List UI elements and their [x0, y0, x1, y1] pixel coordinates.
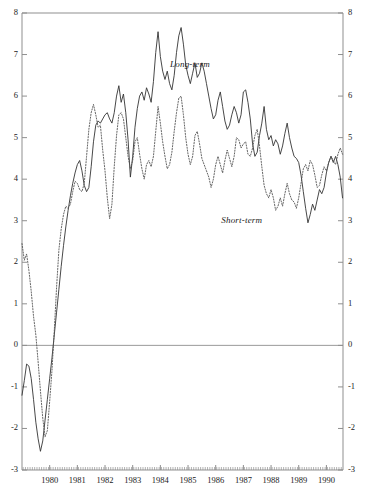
series-line-short-term: [22, 96, 343, 437]
y-axis-label-right--2: -2: [348, 423, 367, 432]
y-axis-label-left--1: -1: [0, 382, 18, 391]
y-axis-label-left-6: 6: [0, 91, 18, 100]
series-annotation-short-term: Short-term: [221, 215, 262, 225]
y-axis-label-left-4: 4: [0, 174, 18, 183]
series-annotation-long-term: Long-term: [170, 59, 210, 69]
y-axis-label-right-4: 4: [348, 174, 367, 183]
y-axis-label-right-3: 3: [348, 216, 367, 225]
y-axis-label-left-7: 7: [0, 50, 18, 59]
y-axis-label-left-2: 2: [0, 257, 18, 266]
y-axis-label-right-6: 6: [348, 91, 367, 100]
x-axis-label-1980: 1980: [36, 476, 64, 485]
x-axis-label-1988: 1988: [257, 476, 285, 485]
chart-plot-area: [0, 0, 367, 500]
x-axis-label-1984: 1984: [146, 476, 174, 485]
y-axis-label-left--2: -2: [0, 423, 18, 432]
y-axis-label-left-0: 0: [0, 340, 18, 349]
x-axis-label-1982: 1982: [91, 476, 119, 485]
chart-figure: 887766554433221100-1-1-2-2-3-31980198119…: [0, 0, 367, 500]
series-line-long-term: [22, 28, 343, 452]
x-axis-label-1985: 1985: [174, 476, 202, 485]
x-axis-label-1990: 1990: [312, 476, 340, 485]
y-axis-label-right-0: 0: [348, 340, 367, 349]
x-axis-label-1989: 1989: [285, 476, 313, 485]
y-axis-label-right--3: -3: [348, 465, 367, 474]
x-axis-label-1983: 1983: [119, 476, 147, 485]
axis-frame: [22, 13, 343, 470]
x-axis-label-1987: 1987: [229, 476, 257, 485]
x-axis-label-1981: 1981: [63, 476, 91, 485]
y-axis-label-left-3: 3: [0, 216, 18, 225]
y-axis-label-left-1: 1: [0, 299, 18, 308]
x-axis-label-1986: 1986: [202, 476, 230, 485]
y-axis-label-right-1: 1: [348, 299, 367, 308]
y-axis-label-right-8: 8: [348, 8, 367, 17]
y-axis-label-right-2: 2: [348, 257, 367, 266]
y-axis-label-left--3: -3: [0, 465, 18, 474]
y-axis-label-right--1: -1: [348, 382, 367, 391]
x-tick-marks: [23, 465, 341, 470]
y-axis-label-right-7: 7: [348, 50, 367, 59]
y-axis-label-left-8: 8: [0, 8, 18, 17]
y-axis-label-left-5: 5: [0, 133, 18, 142]
y-tick-marks: [22, 13, 343, 470]
y-axis-label-right-5: 5: [348, 133, 367, 142]
